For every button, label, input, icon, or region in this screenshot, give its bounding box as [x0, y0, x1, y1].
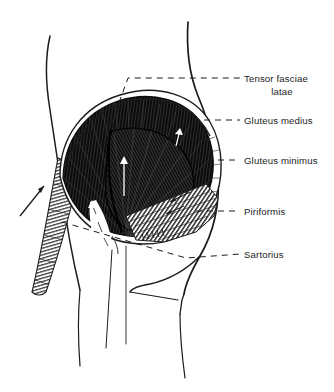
label-gluteus-minimus: Gluteus minimus	[244, 155, 318, 166]
label-tensor-fasciae-latae-line1: Tensor fasciae	[244, 73, 308, 84]
label-gluteus-medius: Gluteus medius	[244, 115, 313, 126]
label-tensor-fasciae-latae-line2: latae	[271, 86, 293, 97]
label-piriformis: Piriformis	[244, 206, 286, 217]
anatomical-figure: Tensor fasciae latae Gluteus medius Glut…	[0, 0, 334, 392]
label-sartorius: Sartorius	[244, 249, 284, 260]
anatomy-illustration: Tensor fasciae latae Gluteus medius Glut…	[0, 0, 334, 392]
